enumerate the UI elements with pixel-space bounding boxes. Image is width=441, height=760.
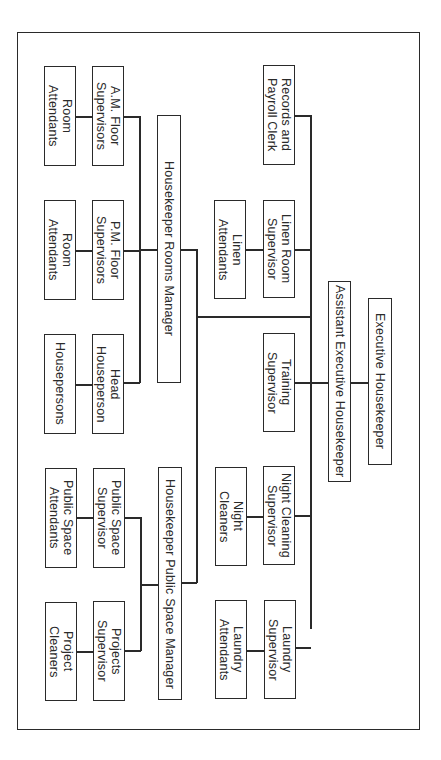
node-label: Linen Attendants — [216, 219, 244, 281]
node-project-cleaners: Project Cleaners — [45, 602, 77, 701]
connector-training — [294, 382, 311, 384]
node-label: Housekeeper Rooms Manager — [162, 161, 176, 336]
node-label: Project Cleaners — [47, 626, 75, 678]
node-label: Public Space Supervisor — [95, 480, 123, 555]
node-am-floor-supervisors: A.M. Floor Supervisors — [92, 66, 124, 166]
node-label: Room Attendants — [46, 85, 74, 147]
node-label: Housepersons — [53, 342, 67, 425]
node-linen-attendants: Linen Attendants — [214, 200, 246, 299]
node-housekeeper-rooms-manager: Housekeeper Rooms Manager — [157, 115, 181, 383]
node-label: P.M. Floor Supervisors — [94, 216, 122, 284]
node-executive-housekeeper: Executive Housekeeper — [368, 298, 392, 465]
connector-rooms-mgr — [180, 249, 197, 251]
node-pm-room-attendants: Room Attendants — [44, 200, 76, 300]
connector-ps-att — [76, 517, 93, 519]
connector-night-sup — [294, 515, 311, 517]
node-label: Laundry Attendants — [217, 619, 245, 681]
connector-proj-cln — [76, 651, 93, 653]
node-label: Projects Supervisor — [95, 620, 123, 682]
connector-records — [294, 115, 311, 117]
connector-am-att — [75, 116, 92, 118]
connector-assistant-spine-vertical — [310, 115, 312, 629]
node-laundry-attendants: Laundry Attendants — [215, 600, 247, 699]
node-label: Linen Room Supervisor — [265, 214, 293, 283]
connector-rooms-mgr-left — [139, 249, 157, 251]
connector-am-sup — [123, 116, 140, 118]
connector-night-cln — [246, 516, 264, 518]
node-label: Public Space Attendants — [47, 480, 75, 555]
node-label: Executive Housekeeper — [373, 313, 387, 449]
node-label: Night Cleaners — [217, 491, 245, 543]
node-label: Head Houseperson — [94, 346, 122, 423]
connector-laundry-att — [246, 650, 264, 652]
node-label: Housekeeper Public Space Manager — [163, 479, 177, 689]
node-am-room-attendants: Room Attendants — [44, 66, 76, 166]
node-label: Records and Payroll Clerk — [265, 78, 293, 151]
connector-spine-managers — [196, 316, 311, 318]
node-records-payroll-clerk: Records and Payroll Clerk — [263, 65, 295, 165]
node-night-cleaners: Night Cleaners — [215, 467, 247, 566]
node-label: A.M. Floor Supervisors — [94, 82, 122, 150]
connector-public-vertical — [140, 517, 142, 651]
connector-managers-vertical — [196, 249, 198, 583]
node-laundry-supervisor: Laundry Supervisor — [264, 600, 296, 699]
node-label: Assistant Executive Housekeeper — [333, 285, 347, 477]
connector-proj-sup — [125, 650, 141, 652]
node-housekeeper-public-space-manager: Housekeeper Public Space Manager — [158, 467, 182, 700]
node-public-space-supervisor: Public Space Supervisor — [93, 468, 125, 568]
node-label: Night Cleaning Supervisor — [265, 473, 293, 558]
connector-head-hp — [123, 382, 140, 384]
connector-public-mgr — [181, 582, 197, 584]
node-housepersons: Housepersons — [44, 334, 76, 434]
connector-exec-assistant — [350, 382, 368, 384]
node-public-space-attendants: Public Space Attendants — [45, 468, 77, 568]
node-label: Laundry Supervisor — [266, 619, 294, 681]
connector-laundry-sup — [295, 647, 311, 649]
connector-housepersons — [75, 384, 92, 386]
node-projects-supervisor: Projects Supervisor — [93, 601, 125, 701]
node-linen-room-supervisor: Linen Room Supervisor — [263, 200, 295, 298]
node-assistant-executive-housekeeper: Assistant Executive Housekeeper — [328, 281, 351, 482]
node-training-supervisor: Training Supervisor — [263, 333, 295, 432]
node-night-cleaning-supervisor: Night Cleaning Supervisor — [263, 466, 295, 565]
node-pm-floor-supervisors: P.M. Floor Supervisors — [92, 200, 124, 300]
connector-linen-att — [245, 249, 263, 251]
connector-public-mgr-left — [140, 584, 158, 586]
node-head-houseperson: Head Houseperson — [92, 334, 124, 434]
connector-pm-att — [75, 250, 92, 252]
connector-ps-sup — [124, 517, 141, 519]
connector-linen-sup — [294, 249, 311, 251]
connector-pm-sup — [123, 250, 140, 252]
node-label: Training Supervisor — [265, 352, 293, 414]
connector-assistant-spine — [310, 382, 328, 384]
node-label: Room Attendants — [46, 219, 74, 281]
